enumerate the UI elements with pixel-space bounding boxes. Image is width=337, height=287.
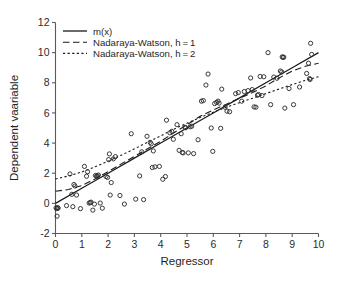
legend-label-0: m(x) — [93, 26, 112, 37]
x-tick-label: 0 — [53, 238, 59, 250]
x-tick-label: 6 — [210, 238, 216, 250]
x-tick-label: 2 — [105, 238, 111, 250]
y-tick-label: 10 — [38, 46, 50, 58]
y-tick-label: 12 — [38, 16, 50, 28]
y-tick-label: 8 — [44, 76, 50, 88]
y-tick-label: 6 — [44, 107, 50, 119]
x-tick-label: 7 — [237, 238, 243, 250]
legend-label-2: Nadaraya-Watson, h = 2 — [93, 48, 195, 59]
x-tick-label: 4 — [158, 238, 164, 250]
y-axis-title: Dependent vaariable — [8, 75, 20, 181]
chart-canvas: -2024681012012345678910 m(x)Nadaraya-Wat… — [0, 0, 337, 287]
x-tick-label: 5 — [184, 238, 190, 250]
x-tick-label: 3 — [131, 238, 137, 250]
x-axis-title: Regressor — [160, 255, 213, 267]
y-tick-label: 4 — [44, 137, 50, 149]
x-tick-label: 1 — [79, 238, 85, 250]
legend-label-1: Nadaraya-Watson, h = 1 — [93, 37, 195, 48]
x-tick-label: 9 — [289, 238, 295, 250]
x-tick-label: 8 — [263, 238, 269, 250]
x-tick-label: 10 — [313, 238, 325, 250]
y-tick-label: 2 — [44, 167, 50, 179]
y-tick-label: 0 — [44, 197, 50, 209]
scatter-plot-figure: -2024681012012345678910 m(x)Nadaraya-Wat… — [0, 0, 337, 287]
y-tick-label: -2 — [40, 227, 49, 239]
